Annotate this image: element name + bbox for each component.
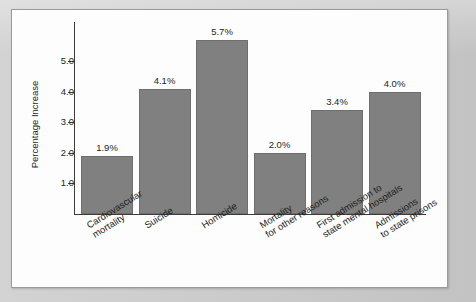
bar[interactable]	[196, 40, 248, 214]
y-axis-title: Percentage Increase	[29, 60, 40, 190]
bar-value-label: 4.0%	[363, 79, 427, 89]
figure-page-background: 1.02.03.04.05.0 Percentage Increase 1.9%…	[0, 0, 476, 302]
bar[interactable]	[139, 89, 191, 214]
y-axis-line	[74, 22, 75, 215]
plot-area: 1.02.03.04.05.0 Percentage Increase 1.9%…	[12, 10, 449, 289]
bar-value-label: 2.0%	[248, 140, 312, 150]
bar-value-label: 5.7%	[190, 27, 254, 37]
chart-panel: 1.02.03.04.05.0 Percentage Increase 1.9%…	[11, 9, 448, 288]
bar-value-label: 1.9%	[75, 143, 139, 153]
bar-value-label: 4.1%	[133, 76, 197, 86]
bar-value-label: 3.4%	[305, 97, 369, 107]
